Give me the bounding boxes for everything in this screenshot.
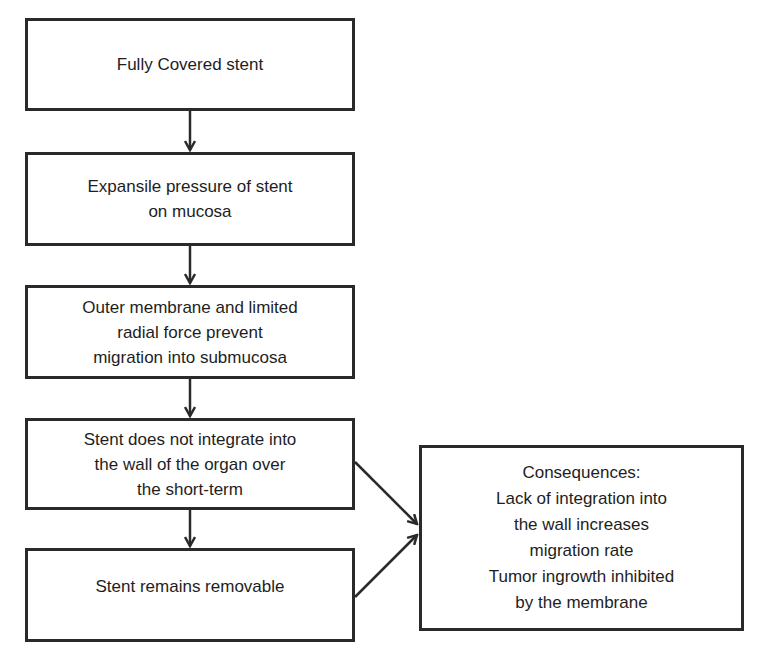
node-text: radial force prevent [117,320,263,345]
node-text: Fully Covered stent [117,52,263,77]
node-consequences: Consequences: Lack of integration into t… [419,445,744,631]
node-text: Lack of integration into [496,486,667,512]
node-text: the short-term [137,477,243,502]
node-stent-removable: Stent remains removable [25,548,355,642]
arrow-5-to-consequences [355,535,417,597]
node-text: Tumor ingrowth inhibited [489,564,675,590]
node-text: Expansile pressure of stent [87,174,292,199]
node-no-integration: Stent does not integrate into the wall o… [25,418,355,510]
node-expansile-pressure: Expansile pressure of stent on mucosa [25,152,355,246]
node-text: migration rate [530,538,634,564]
node-text: the wall of the organ over [95,452,286,477]
node-text: by the membrane [515,590,647,616]
arrow-4-to-consequences [355,462,417,524]
node-text: Outer membrane and limited [82,295,297,320]
node-text: Stent remains removable [96,574,285,599]
node-fully-covered-stent: Fully Covered stent [25,18,355,111]
node-outer-membrane: Outer membrane and limited radial force … [25,285,355,379]
node-text: migration into submucosa [93,345,287,370]
node-text: the wall increases [514,512,649,538]
node-text: on mucosa [148,199,231,224]
node-text: Consequences: [522,460,640,486]
node-text: Stent does not integrate into [84,427,297,452]
